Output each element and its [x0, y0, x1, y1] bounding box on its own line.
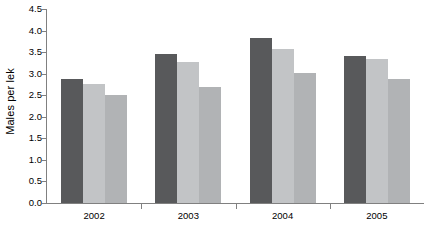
y-tick-mark [42, 52, 46, 53]
y-tick-label: 2.0 [16, 112, 42, 122]
x-tick-mark [330, 204, 331, 209]
x-tick-label: 2004 [236, 210, 330, 222]
bar [155, 54, 177, 203]
x-tick-label: 2003 [141, 210, 235, 222]
y-tick-mark [42, 138, 46, 139]
bar [105, 95, 127, 203]
y-axis-tick-labels: 0.00.51.01.52.02.53.03.54.04.5 [16, 0, 42, 225]
y-tick-label: 4.0 [16, 26, 42, 36]
y-tick-label: 2.5 [16, 90, 42, 100]
y-tick-mark [42, 74, 46, 75]
x-tick-label: 2005 [330, 210, 424, 222]
y-tick-mark [42, 9, 46, 10]
y-tick-label: 1.0 [16, 155, 42, 165]
y-tick-label: 3.0 [16, 69, 42, 79]
bar [83, 84, 105, 203]
bar-group-2003 [141, 9, 235, 203]
y-tick-mark [42, 31, 46, 32]
bar [366, 59, 388, 203]
plot-area [47, 9, 424, 203]
y-tick-mark [42, 95, 46, 96]
bar [61, 79, 83, 203]
bar-chart: Males per lek 0.00.51.01.52.02.53.03.54.… [0, 0, 428, 225]
x-axis-tick-labels: 2002200320042005 [47, 210, 424, 224]
y-tick-mark [42, 181, 46, 182]
y-tick-label: 1.5 [16, 134, 42, 144]
bar [272, 49, 294, 203]
y-tick-label: 3.5 [16, 47, 42, 57]
bar [294, 73, 316, 203]
x-tick-label: 2002 [47, 210, 141, 222]
y-tick-label: 0.5 [16, 177, 42, 187]
bar [177, 62, 199, 203]
x-tick-mark [236, 204, 237, 209]
y-tick-mark [42, 203, 46, 204]
bar [388, 79, 410, 203]
bar-group-2005 [330, 9, 424, 203]
bar-group-2004 [236, 9, 330, 203]
bar [344, 56, 366, 203]
bar [199, 87, 221, 203]
y-tick-label: 4.5 [16, 4, 42, 14]
bar-group-2002 [47, 9, 141, 203]
y-tick-mark [42, 160, 46, 161]
bar [250, 38, 272, 203]
x-tick-mark [141, 204, 142, 209]
y-tick-label: 0.0 [16, 198, 42, 208]
y-tick-mark [42, 117, 46, 118]
